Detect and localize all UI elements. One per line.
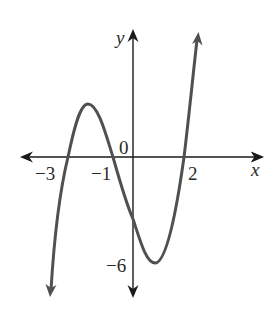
x-tick-label-2: 2 (188, 163, 198, 184)
x-axis-label: x (250, 159, 260, 180)
function-graph: y x 0 −3 −1 2 −6 (0, 0, 273, 309)
x-tick-label-neg1: −1 (91, 163, 111, 184)
y-tick-label-neg6: −6 (106, 255, 126, 276)
x-tick-label-neg3: −3 (35, 163, 55, 184)
y-axis-label: y (114, 27, 125, 48)
origin-label: 0 (119, 137, 129, 158)
cubic-curve (51, 40, 197, 290)
